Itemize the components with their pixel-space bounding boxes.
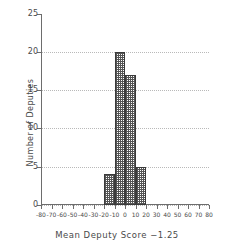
x-tick--70 xyxy=(52,205,53,209)
y-tick-label-10: 10 xyxy=(28,123,38,132)
x-tick--30 xyxy=(94,205,95,209)
y-tick-label-20: 20 xyxy=(28,47,38,56)
histogram-figure: Number of Deputies 0 5 10 15 20 25 xyxy=(0,0,234,251)
histogram-bar-bin--10-0 xyxy=(115,52,126,205)
x-tick-40 xyxy=(167,205,168,209)
x-tick--10 xyxy=(115,205,116,209)
y-tick-label-15: 15 xyxy=(28,85,38,94)
x-tick--50 xyxy=(73,205,74,209)
x-tick-30 xyxy=(157,205,158,209)
x-tick-label-80: 80 xyxy=(198,211,220,218)
histogram-bar-bin-10-20 xyxy=(136,167,147,205)
gridline-20 xyxy=(41,52,209,53)
x-tick-20 xyxy=(146,205,147,209)
histogram-bar-bin--20--10 xyxy=(104,174,115,205)
histogram-bar-bin-0-10 xyxy=(125,75,136,205)
x-tick--40 xyxy=(83,205,84,209)
x-tick-80 xyxy=(209,205,210,209)
x-tick--20 xyxy=(104,205,105,209)
x-tick-60 xyxy=(188,205,189,209)
x-axis-title: Mean Deputy Score −1.25 xyxy=(0,230,234,240)
plot-area: 0 5 10 15 20 25 -80 -70 -60 -50 -40 -30 … xyxy=(41,14,209,205)
x-tick-0 xyxy=(125,205,126,209)
x-tick--80 xyxy=(41,205,42,209)
x-tick-10 xyxy=(136,205,137,209)
x-tick--60 xyxy=(62,205,63,209)
y-tick-label-0: 0 xyxy=(33,200,38,209)
y-axis-line xyxy=(41,14,42,205)
y-tick-label-25: 25 xyxy=(28,9,38,18)
y-tick-label-5: 5 xyxy=(33,162,38,171)
x-tick-50 xyxy=(178,205,179,209)
x-tick-70 xyxy=(199,205,200,209)
